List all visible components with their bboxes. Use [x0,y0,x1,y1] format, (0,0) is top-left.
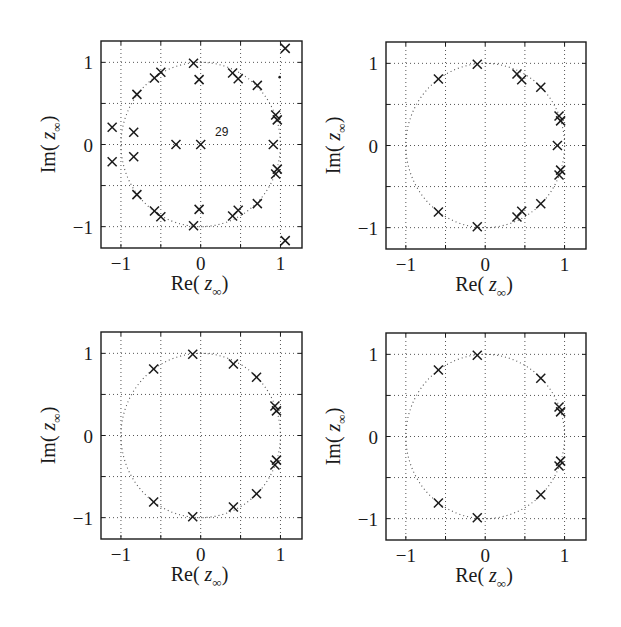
x-marker [434,365,443,374]
x-marker [434,499,443,508]
y-tick-label: 0 [369,427,379,448]
x-marker [536,490,545,499]
data-markers [434,351,565,523]
x-marker [473,513,482,522]
grid [386,333,586,540]
x-tick-label: 1 [560,545,570,566]
x-tick-label: −1 [396,545,416,566]
y-tick-label: −1 [358,509,378,530]
plot-canvas: −101−101Re( z∞)Im( z∞) [0,0,621,627]
x-tick-label: 0 [480,545,490,566]
y-tick-label: 1 [369,344,379,365]
x-marker [536,374,545,383]
x-axis-label: Re( z∞) [455,564,513,591]
y-axis-label: Im( z∞) [322,408,349,466]
subplot-bottom-right: −101−101Re( z∞)Im( z∞) [0,0,621,627]
